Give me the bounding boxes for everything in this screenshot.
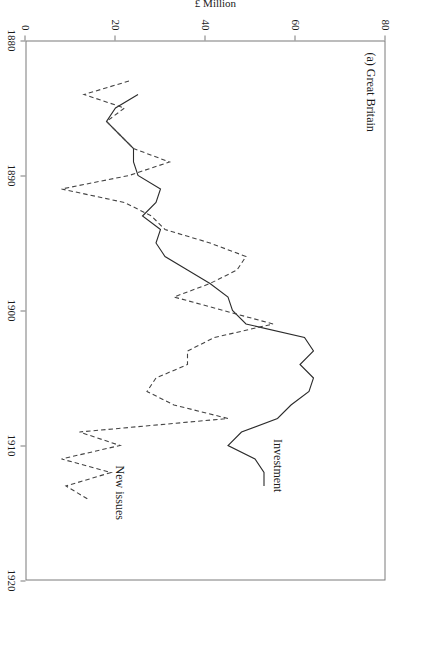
- chart-figure: 18801890190019101920 020406080 £ Million…: [0, 0, 429, 662]
- y-tick-label: 60: [289, 4, 300, 30]
- y-tick: [114, 35, 115, 40]
- series-label-investment: Investment: [270, 439, 285, 492]
- x-tick: [20, 445, 25, 446]
- y-tick: [294, 35, 295, 40]
- y-axis-title: £ Million: [170, 0, 260, 8]
- panel-title: (a) Great Britain: [362, 52, 377, 131]
- x-tick-label: 1880: [5, 17, 16, 63]
- figure-canvas: 18801890190019101920 020406080 £ Million…: [0, 0, 429, 662]
- y-tick-label: 20: [109, 4, 120, 30]
- x-tick-label: 1900: [5, 287, 16, 333]
- x-tick: [20, 310, 25, 311]
- x-tick-label: 1890: [5, 152, 16, 198]
- y-tick: [24, 35, 25, 40]
- x-tick-label: 1920: [5, 557, 16, 603]
- rotated-figure-wrapper: 18801890190019101920 020406080 £ Million…: [0, 0, 429, 662]
- series-line-investment: [106, 94, 313, 486]
- x-tick-label: 1910: [5, 422, 16, 468]
- y-tick: [384, 35, 385, 40]
- y-tick: [204, 35, 205, 40]
- y-tick-label: 80: [379, 4, 390, 30]
- series-line-new-issues: [61, 81, 273, 500]
- series-layer: [25, 40, 385, 580]
- y-tick-label: 0: [19, 4, 30, 30]
- x-tick: [20, 175, 25, 176]
- x-tick: [20, 580, 25, 581]
- series-label-new-issues: New issues: [112, 465, 127, 519]
